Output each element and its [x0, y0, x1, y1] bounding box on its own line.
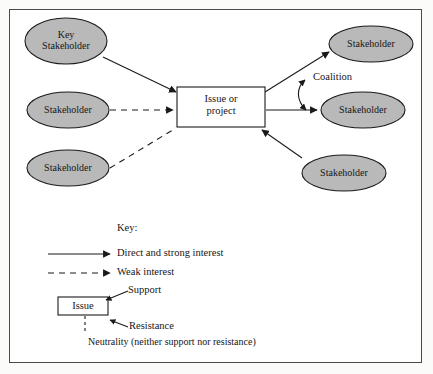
stakeholder-node-stakeholder-top-right[interactable] — [329, 26, 413, 62]
coalition-label: Coalition — [313, 71, 352, 82]
stakeholder-node-stakeholder-bottom-right[interactable] — [302, 155, 386, 191]
stakeholder-node-stakeholder-mid-right[interactable] — [321, 92, 405, 128]
key-entry-label-weak-interest: Weak interest — [117, 266, 174, 277]
legend-neutrality-label: Neutrality (neither support nor resistan… — [88, 336, 256, 347]
connector-key-stakeholder-to-issue — [103, 57, 176, 92]
stakeholder-node-stakeholder-mid-left[interactable] — [27, 92, 109, 128]
legend-resistance-label: Resistance — [129, 320, 174, 331]
issue-or-project-box[interactable] — [177, 87, 265, 127]
coalition-arc — [298, 80, 306, 110]
stakeholder-node-key-stakeholder-top-left[interactable] — [25, 18, 107, 64]
diagram-canvas — [0, 0, 433, 374]
key-heading: Key: — [117, 222, 137, 233]
diagram-page: Key Stakeholder Stakeholder Stakeholder … — [0, 0, 433, 374]
key-entry-label-direct-and-strong-interest: Direct and strong interest — [117, 247, 223, 258]
legend-support-arrow-icon — [106, 291, 128, 300]
legend-issue-box[interactable] — [58, 297, 108, 315]
legend-resistance-arrow-icon — [110, 320, 128, 327]
connector-stakeholder-bottom-right-to-issue — [262, 130, 302, 158]
stakeholder-node-stakeholder-bottom-left[interactable] — [27, 150, 109, 186]
legend-support-label: Support — [128, 284, 161, 295]
connector-stakeholder-bottom-left-to-issue — [110, 128, 176, 168]
